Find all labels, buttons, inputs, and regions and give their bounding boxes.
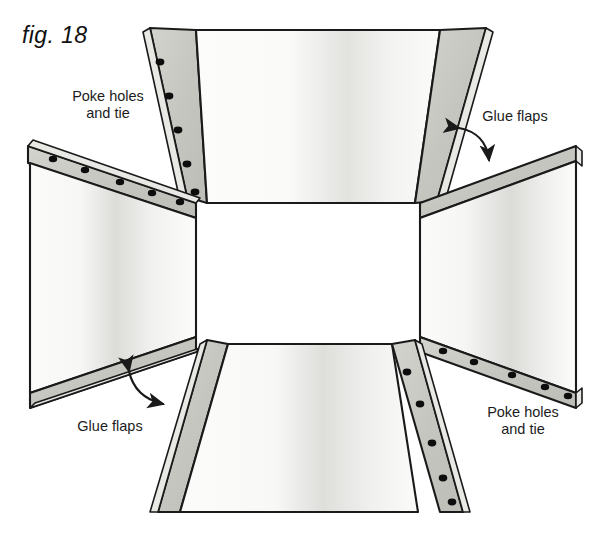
panel-top-face	[196, 30, 440, 203]
figure-caption: fig. 18	[22, 22, 87, 49]
panel-bottom	[150, 340, 470, 512]
panel-left	[28, 140, 200, 408]
panel-top	[143, 28, 493, 205]
arrow-glue-bottom-left	[129, 371, 163, 404]
label-glue-flaps-top-right: Glue flaps	[463, 108, 567, 125]
label-poke-holes-top-left: Poke holes and tie	[52, 88, 164, 122]
assembly-diagram	[0, 0, 604, 542]
figure-canvas: fig. 18 Poke holes and tie Glue flaps Gl…	[0, 0, 604, 542]
label-poke-holes-bottom-right: Poke holes and tie	[467, 404, 579, 438]
label-glue-flaps-bottom-left: Glue flaps	[58, 418, 162, 435]
